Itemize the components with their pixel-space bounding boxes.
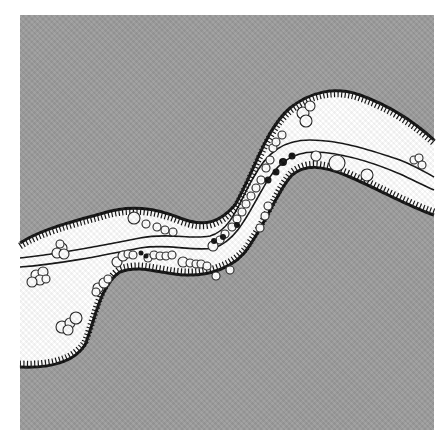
open-circle (63, 325, 73, 335)
filled-dot (139, 251, 144, 256)
open-circle (59, 249, 69, 259)
filled-dot (234, 222, 240, 228)
filled-dot (289, 153, 296, 160)
open-circle (128, 212, 140, 224)
filled-dot (144, 254, 149, 259)
filled-dot (220, 234, 226, 240)
open-circle (262, 164, 270, 172)
open-circle (70, 312, 82, 324)
open-circle (361, 169, 373, 181)
open-circle (142, 220, 150, 228)
filled-dot (211, 238, 217, 244)
open-circle (168, 251, 176, 259)
open-circle (169, 228, 177, 236)
open-circle (311, 151, 321, 161)
open-circle (203, 262, 211, 270)
open-circle (305, 101, 315, 111)
open-circle (264, 202, 272, 210)
filled-dot (265, 177, 272, 184)
open-circle (56, 240, 64, 248)
open-circle (329, 155, 345, 171)
open-circle (161, 226, 169, 234)
filled-dot (273, 169, 280, 176)
open-circle (266, 156, 274, 164)
open-circle (153, 223, 161, 231)
open-circle (252, 184, 260, 192)
open-circle (27, 277, 37, 287)
open-circle (212, 272, 220, 280)
open-circle (233, 215, 241, 223)
open-circle (242, 200, 250, 208)
open-circle (42, 275, 50, 283)
open-circle (92, 288, 100, 296)
stream-meander-diagram (0, 0, 446, 447)
open-circle (261, 212, 269, 220)
open-circle (238, 208, 246, 216)
filled-dot (279, 158, 287, 166)
open-circle (418, 161, 426, 169)
open-circle (129, 251, 137, 259)
open-circle (104, 275, 112, 283)
open-circle (226, 266, 234, 274)
open-circle (272, 138, 280, 146)
open-circle (256, 224, 264, 232)
open-circle (278, 131, 286, 139)
open-circle (300, 115, 312, 127)
open-circle (247, 192, 255, 200)
open-circle (257, 176, 265, 184)
